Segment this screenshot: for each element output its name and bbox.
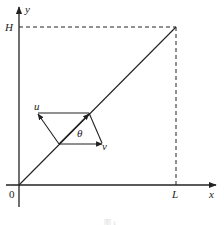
origin-label: 0 [9, 188, 15, 200]
l-mark-label: L [171, 188, 178, 200]
diagonal-line [19, 27, 176, 185]
theta-label: θ [77, 127, 83, 139]
x-axis-label: x [208, 188, 214, 200]
y-axis-label: y [24, 3, 30, 15]
right-edge [89, 113, 102, 143]
diagram-canvas: y H u θ v 0 L x 图 1 [0, 0, 224, 225]
figure-caption: 图 1 [104, 219, 117, 225]
vector-parallelogram [38, 113, 102, 144]
h-mark-label: H [4, 21, 14, 33]
u-label: u [34, 100, 40, 112]
v-label: v [102, 140, 107, 152]
diag-vector [59, 114, 89, 144]
u-vector [38, 114, 59, 144]
